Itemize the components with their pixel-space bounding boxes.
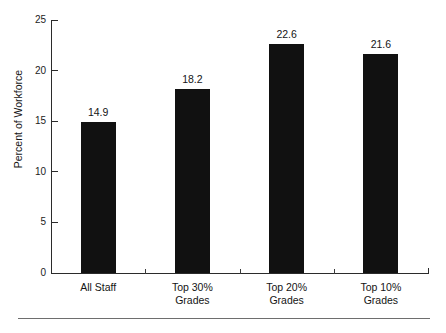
bar-value-label: 18.2 [162,74,222,85]
x-axis-category-label: Top 10%Grades [336,281,426,307]
y-axis-tick-label-text: 0 [18,268,46,278]
x-axis-category-label: All Staff [53,281,143,294]
x-axis-category-label-line: All Staff [53,281,143,294]
y-axis-tick-label: 15 [14,116,46,126]
x-axis-category-label: Top 30%Grades [147,281,237,307]
y-axis-tick-label-text: 5 [18,217,46,227]
bar [81,122,116,273]
bar-value-label: 21.6 [351,39,411,50]
x-axis-category-label-line: Grades [147,294,237,307]
x-axis-end-tick [428,268,429,274]
bar [363,54,398,273]
x-axis-category-label-line: Grades [242,294,332,307]
plot-area [51,20,428,273]
y-axis-tick-label: 20 [14,66,46,76]
bar-chart-figure: Percent of Workforce 0510152025 14.918.2… [0,0,446,333]
x-axis-category-label-line: Top 20% [242,281,332,294]
bottom-rule [18,318,430,319]
y-axis-tick-label: 0 [14,268,46,278]
bar-value-label: 14.9 [68,107,128,118]
x-axis-category-label-line: Top 10% [336,281,426,294]
x-axis-category-label-line: Top 30% [147,281,237,294]
bar [269,44,304,273]
y-axis-tick-label-text: 10 [18,167,46,177]
y-axis-tick-label: 25 [14,15,46,25]
y-axis-tick-label-text: 25 [18,15,46,25]
y-axis-tick-label-text: 15 [18,116,46,126]
x-axis-category-label-line: Grades [336,294,426,307]
y-axis-tick-label: 10 [14,167,46,177]
bar [175,89,210,273]
y-axis-tick-label-text: 20 [18,66,46,76]
bar-value-label: 22.6 [257,29,317,40]
y-axis-tick-label: 5 [14,217,46,227]
x-axis-category-label: Top 20%Grades [242,281,332,307]
